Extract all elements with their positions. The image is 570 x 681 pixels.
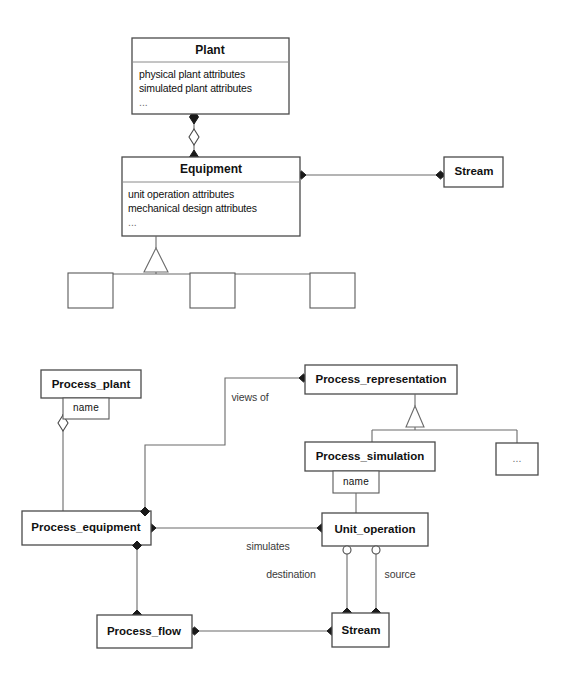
process-representation-class-name: Process_representation xyxy=(315,373,446,385)
class-box-unit-operation[interactable]: Unit_operation xyxy=(322,513,428,546)
edge-label-destination: destination xyxy=(266,568,316,580)
class-box-plant[interactable]: Plant physical plant attributes simulate… xyxy=(132,38,289,114)
uml-class-diagram: Plant physical plant attributes simulate… xyxy=(0,0,570,681)
equipment-attribute-2: mechanical design attributes xyxy=(128,202,257,214)
generalization-triangle-equipment xyxy=(144,248,168,272)
generalization-triangle-representation xyxy=(406,406,424,427)
generalization-tree-representation xyxy=(372,394,517,443)
subclass-box-1[interactable] xyxy=(68,273,113,308)
lower-model-group: views of Process_plant name Process_repr… xyxy=(22,365,538,648)
class-box-equipment[interactable]: Equipment unit operation attributes mech… xyxy=(122,157,300,236)
class-box-process-representation[interactable]: Process_representation xyxy=(305,365,457,394)
equipment-attribute-1: unit operation attributes xyxy=(128,188,234,200)
edge-label-source: source xyxy=(385,568,416,580)
equipment-class-name: Equipment xyxy=(180,162,242,176)
process-simulation-class-name: Process_simulation xyxy=(316,450,425,462)
class-box-process-flow[interactable]: Process_flow xyxy=(97,615,192,648)
process-plant-attribute-name: name xyxy=(73,402,99,413)
process-simulation-attribute-name: name xyxy=(343,476,369,487)
edge-label-simulates: simulates xyxy=(246,540,289,552)
stream-lower-class-name: Stream xyxy=(342,624,381,636)
aggregation-diamond-hollow xyxy=(189,129,199,145)
process-flow-class-name: Process_flow xyxy=(107,625,181,637)
plant-attribute-1: physical plant attributes xyxy=(139,68,245,80)
plant-class-name: Plant xyxy=(195,43,224,57)
role-marker-source xyxy=(372,546,380,554)
class-box-process-equipment[interactable]: Process_equipment xyxy=(22,511,151,545)
ellipsis-box-label: ... xyxy=(513,452,522,464)
plant-attribute-2: simulated plant attributes xyxy=(139,82,252,94)
stream-class-name: Stream xyxy=(455,165,494,177)
upper-model-group: Plant physical plant attributes simulate… xyxy=(68,38,503,308)
class-box-ellipsis[interactable]: ... xyxy=(496,443,538,475)
class-box-process-plant[interactable]: Process_plant name xyxy=(41,370,141,419)
class-box-stream-lower[interactable]: Stream xyxy=(332,613,389,647)
role-marker-destination xyxy=(343,546,351,554)
process-equipment-class-name: Process_equipment xyxy=(31,521,140,533)
subclass-box-3[interactable] xyxy=(310,273,355,308)
class-box-stream-upper[interactable]: Stream xyxy=(444,157,503,187)
process-plant-class-name: Process_plant xyxy=(52,378,131,390)
unit-operation-class-name: Unit_operation xyxy=(334,523,415,535)
equipment-attribute-3: ... xyxy=(128,216,137,228)
link-views-of xyxy=(145,378,303,511)
plant-attribute-3: ... xyxy=(139,96,148,108)
subclass-box-2[interactable] xyxy=(190,273,235,308)
class-box-process-simulation[interactable]: Process_simulation name xyxy=(305,442,435,493)
edge-label-views-of: views of xyxy=(231,391,268,403)
